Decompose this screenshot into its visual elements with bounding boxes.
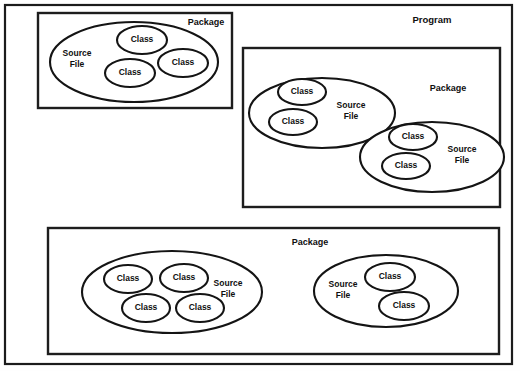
source-file-4-label-line1: Source — [214, 278, 243, 288]
source-file-1-label-line1: Source — [63, 48, 92, 58]
class-3-label: Class — [172, 57, 195, 67]
class-1-label: Class — [131, 34, 154, 44]
source-file-4-label-line2: File — [221, 289, 236, 299]
source-file-2-label-line2: File — [344, 111, 359, 121]
program-label: Program — [412, 14, 451, 25]
class-10-label: Class — [135, 302, 158, 312]
source-file-2-label-line1: Source — [337, 100, 366, 110]
class-7-label: Class — [395, 160, 418, 170]
package-bottom-label: Package — [292, 237, 329, 247]
package-right-label: Package — [430, 83, 467, 93]
package-top-left-label: Package — [188, 17, 225, 27]
class-5-label: Class — [282, 116, 305, 126]
class-9-label: Class — [173, 272, 196, 282]
class-4-label: Class — [291, 86, 314, 96]
class-13-label: Class — [393, 300, 416, 310]
class-2-label: Class — [119, 67, 142, 77]
source-file-5-label-line2: File — [336, 290, 351, 300]
program-structure-diagram: Program Package Source File Class Class … — [0, 0, 520, 371]
source-file-5-label-line1: Source — [329, 279, 358, 289]
diagram-canvas: Program Package Source File Class Class … — [0, 0, 520, 371]
source-file-1-label-line2: File — [70, 59, 85, 69]
class-11-label: Class — [189, 302, 212, 312]
class-8-label: Class — [117, 273, 140, 283]
class-12-label: Class — [379, 271, 402, 281]
class-6-label: Class — [402, 131, 425, 141]
source-file-3-label-line1: Source — [448, 144, 477, 154]
source-file-3-label-line2: File — [455, 155, 470, 165]
